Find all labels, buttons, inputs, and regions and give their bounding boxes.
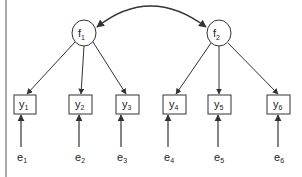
indicator-y5: y5 [208,95,231,114]
error-e5: e5 [214,151,224,164]
indicator-y3: y3 [116,95,139,114]
error-e3: e3 [117,151,127,164]
error-e6: e6 [274,151,284,164]
loadings-f1 [27,42,126,94]
factor-f2: f2 [207,20,231,46]
error-e2: e2 [75,151,85,164]
error-e1: e1 [17,151,27,164]
indicator-y2: y2 [69,95,92,114]
covariance-arrow [97,6,206,27]
indicator-y4: y4 [163,95,186,114]
error-e4: e4 [164,151,174,164]
indicator-y1: y1 [14,95,36,114]
indicator-y6: y6 [267,95,290,114]
sem-diagram: f1 f2 y1 y2 y3 y4 y5 y6 [0,0,302,177]
error-arrows [21,115,278,147]
loadings-f2 [176,43,278,94]
factor-f1: f1 [72,20,96,46]
